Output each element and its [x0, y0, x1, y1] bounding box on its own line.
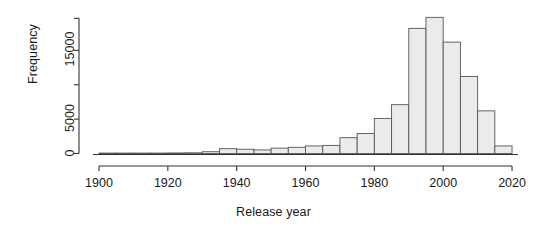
histogram-bar — [443, 42, 460, 153]
histogram-bar — [185, 153, 202, 154]
bars-group — [99, 17, 512, 153]
histogram-bar — [495, 146, 512, 154]
x-tick-label: 1920 — [138, 176, 198, 190]
histogram-bar — [340, 138, 357, 154]
histogram-bar — [271, 148, 288, 153]
histogram-bar — [99, 153, 116, 154]
histogram-bar — [357, 134, 374, 154]
histogram-bar — [460, 76, 477, 153]
histogram-bar — [323, 145, 340, 153]
histogram-bar — [202, 152, 219, 154]
histogram-bar — [254, 150, 271, 154]
x-tick-label: 1940 — [207, 176, 267, 190]
histogram-bar — [478, 111, 495, 154]
y-axis-title: Frequency — [26, 0, 40, 109]
histogram-plot: Frequency Release year 0500015000 190019… — [0, 0, 547, 243]
histogram-bar — [306, 146, 323, 154]
x-tick-label: 1960 — [276, 176, 336, 190]
histogram-bar — [219, 149, 236, 154]
x-tick-label: 1900 — [69, 176, 129, 190]
y-tick-label: 15000 — [63, 19, 77, 79]
histogram-bar — [409, 28, 426, 153]
histogram-bar — [116, 153, 133, 154]
histogram-bar — [237, 149, 254, 153]
histogram-bar — [151, 153, 168, 154]
histogram-bar — [168, 153, 185, 154]
histogram-bar — [133, 153, 150, 154]
histogram-bar — [426, 17, 443, 153]
histogram-bar — [374, 118, 391, 153]
x-tick-label: 1980 — [344, 176, 404, 190]
x-tick-label: 2000 — [413, 176, 473, 190]
histogram-bar — [392, 105, 409, 154]
y-tick-label: 5000 — [63, 88, 77, 148]
histogram-bar — [288, 147, 305, 153]
x-axis-title: Release year — [0, 205, 547, 219]
x-tick-label: 2020 — [482, 176, 542, 190]
